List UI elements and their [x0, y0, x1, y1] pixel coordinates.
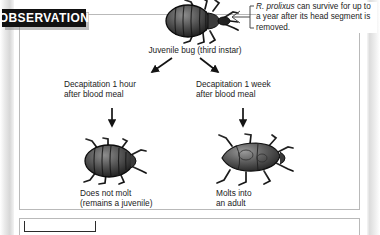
- page-gutter-right: [367, 0, 380, 235]
- branch-left-condition: Decapitation 1 hour after blood meal: [64, 79, 174, 99]
- page-gutter-left: [0, 0, 14, 235]
- juvenile-bug-caption: Juvenile bug (third instar): [120, 45, 270, 55]
- observation-banner-label: OBSERVATION: [0, 11, 89, 25]
- branch-right-condition: Decapitation 1 week after blood meal: [196, 79, 308, 99]
- branch-right-outcome: Molts into an adult: [216, 188, 316, 208]
- branch-left-outcome: Does not molt (remains a juvenile): [80, 188, 192, 208]
- figure-page: OBSERVATION: [0, 0, 380, 235]
- observation-panel: [19, 14, 360, 210]
- next-section-tab: [24, 221, 96, 232]
- observation-banner: OBSERVATION: [2, 9, 86, 27]
- callout-species: R. prolixus: [256, 2, 295, 11]
- callout-note: R. prolixus can survive for up to a year…: [256, 2, 377, 33]
